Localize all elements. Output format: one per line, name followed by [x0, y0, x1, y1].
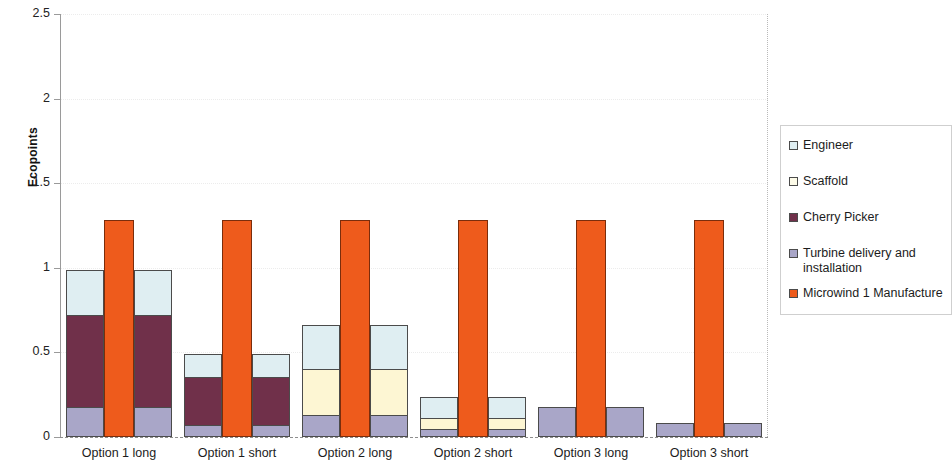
legend-item[interactable]: Engineer [789, 138, 853, 153]
bar-segment [420, 418, 458, 428]
legend-item[interactable]: Microwind 1 Manufacture [789, 286, 943, 301]
legend-label: Cherry Picker [803, 210, 879, 225]
bar-segment [420, 429, 458, 437]
stacked-bar [252, 354, 290, 437]
stacked-bar [134, 270, 172, 437]
bar-segment [66, 315, 104, 407]
plot-right-border [767, 14, 768, 437]
legend-swatch-icon [789, 213, 798, 222]
bar-segment [302, 325, 340, 370]
overlay-bar-microwind-manufacture [104, 220, 134, 437]
bar-segment [488, 418, 526, 428]
legend-swatch-icon [789, 141, 798, 150]
bar-segment [370, 325, 408, 370]
bar-segment [252, 354, 290, 377]
legend-item[interactable]: Scaffold [789, 174, 848, 189]
overlay-bar-microwind-manufacture [576, 220, 606, 437]
legend-label: Turbine delivery and installation [803, 246, 951, 276]
legend-swatch-icon [789, 289, 798, 298]
stacked-bar [606, 407, 644, 437]
overlay-bar-microwind-manufacture [694, 220, 724, 437]
bar-segment [302, 369, 340, 415]
bar-segment [184, 354, 222, 377]
legend-label: Scaffold [803, 174, 848, 189]
bar-segment [538, 407, 576, 437]
x-axis-baseline [60, 437, 768, 438]
stacked-bar [370, 325, 408, 437]
y-tick-label: 0 [6, 430, 50, 443]
stacked-bar [302, 325, 340, 437]
bar-segment [66, 407, 104, 437]
x-axis-label: Option 3 long [532, 446, 650, 460]
bar-segment [184, 377, 222, 425]
bar-segment [420, 397, 458, 418]
y-tick-label: 1.5 [6, 176, 50, 189]
y-tick-label: 2.5 [6, 7, 50, 20]
legend-swatch-icon [789, 249, 798, 258]
stacked-bar [656, 423, 694, 437]
bar-segment [370, 415, 408, 437]
bar-segment [184, 425, 222, 437]
bar-segment [656, 423, 694, 437]
bar-segment [252, 425, 290, 437]
y-tick-label: 2 [6, 92, 50, 105]
x-axis-label: Option 2 long [296, 446, 414, 460]
y-tick-label: 1 [6, 261, 50, 274]
legend-swatch-icon [789, 177, 798, 186]
stacked-bar [488, 397, 526, 437]
bar-segment [606, 407, 644, 437]
bar-segment [370, 369, 408, 415]
bar-segment [134, 270, 172, 315]
overlay-bar-microwind-manufacture [222, 220, 252, 437]
legend-item[interactable]: Cherry Picker [789, 210, 879, 225]
stacked-bar [184, 354, 222, 437]
x-axis-label: Option 1 short [178, 446, 296, 460]
stacked-bar [724, 423, 762, 437]
legend-label: Engineer [803, 138, 853, 153]
y-tick-label: 0.5 [6, 345, 50, 358]
stacked-bar [538, 407, 576, 437]
x-axis-label: Option 1 long [60, 446, 178, 460]
bar-segment [724, 423, 762, 437]
x-axis-label: Option 2 short [414, 446, 532, 460]
bar-segment [134, 315, 172, 407]
bar-segment [488, 429, 526, 437]
stacked-bar [66, 270, 104, 437]
stacked-bar [420, 397, 458, 437]
overlay-bar-microwind-manufacture [458, 220, 488, 437]
overlay-bar-microwind-manufacture [340, 220, 370, 437]
legend-label: Microwind 1 Manufacture [803, 286, 943, 301]
bar-segment [134, 407, 172, 437]
y-axis-title: Ecopoints [26, 102, 40, 212]
bar-segment [302, 415, 340, 437]
chart-legend: EngineerScaffoldCherry PickerTurbine del… [780, 125, 952, 315]
x-axis-label: Option 3 short [650, 446, 768, 460]
legend-item[interactable]: Turbine delivery and installation [789, 246, 951, 276]
bar-segment [66, 270, 104, 315]
bar-segment [252, 377, 290, 425]
bar-segment [488, 397, 526, 418]
